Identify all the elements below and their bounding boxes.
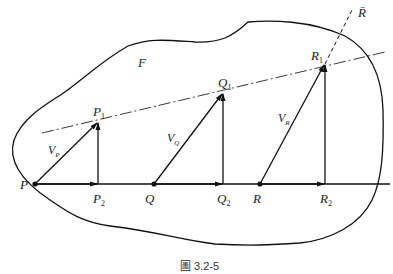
label-R: R: [252, 191, 261, 206]
point-P-dot: [32, 181, 37, 186]
label-R1: R1: [310, 48, 323, 65]
label-P1: P1: [92, 104, 105, 121]
label-Q1: Q1: [218, 75, 231, 92]
r-bar-label: R̄: [357, 5, 366, 20]
label-VR: VR: [278, 111, 290, 127]
point-Q-dot: [151, 181, 156, 186]
point-R-dot: [257, 181, 262, 186]
velocity-vector-R: [260, 65, 324, 184]
velocity-diagram: F R̄ P Q R P1 Q1 R1 P2 Q2 R2 VP VQ VR 圖 …: [0, 0, 393, 274]
label-Q: Q: [145, 191, 155, 206]
label-Q2: Q2: [217, 191, 230, 208]
label-VQ: VQ: [167, 131, 179, 147]
body-outline: [13, 21, 384, 245]
label-P2: P2: [92, 191, 105, 208]
velocity-vector-Q: [154, 94, 222, 184]
label-R2: R2: [319, 191, 332, 208]
label-VP: VP: [48, 143, 60, 159]
tip-line: [42, 52, 385, 133]
figure-caption: 圖 3.2-5: [180, 260, 219, 272]
region-label-F: F: [137, 55, 147, 70]
label-P: P: [19, 177, 28, 192]
